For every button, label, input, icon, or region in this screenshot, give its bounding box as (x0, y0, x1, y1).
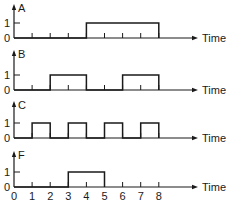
y-axis-arrow-icon (12, 50, 16, 56)
time-axis-label: Time (202, 32, 226, 44)
y-axis-arrow-icon (12, 151, 16, 157)
x-tick-label: 6 (120, 190, 126, 202)
x-tick-label: 1 (29, 190, 35, 202)
time-axis-arrow-icon (192, 36, 198, 40)
signal-label: B (18, 48, 25, 60)
waveform-c (14, 123, 159, 138)
y-axis-arrow-icon (12, 101, 16, 107)
x-tick-label: 5 (101, 190, 107, 202)
signal-panel-f: F10Time (4, 149, 226, 193)
time-axis-arrow-icon (192, 88, 198, 92)
x-tick-label: 2 (47, 190, 53, 202)
y-tick-label-0: 0 (4, 32, 10, 44)
signal-label: F (18, 149, 25, 161)
time-axis-arrow-icon (192, 185, 198, 189)
timing-diagram: A10TimeB10TimeC10TimeF10Time 012345678 (0, 0, 227, 206)
x-axis-tick-labels: 012345678 (11, 190, 162, 202)
y-tick-label-1: 1 (4, 117, 10, 129)
waveform-b (14, 75, 159, 90)
x-tick-label: 3 (65, 190, 71, 202)
y-tick-label-0: 0 (4, 181, 10, 193)
x-tick-label: 4 (83, 190, 89, 202)
signal-label: C (18, 99, 26, 111)
y-tick-label-0: 0 (4, 84, 10, 96)
time-axis-label: Time (202, 132, 226, 144)
signal-panel-a: A10Time (4, 2, 226, 44)
y-tick-label-1: 1 (4, 166, 10, 178)
x-tick-label: 0 (11, 190, 17, 202)
y-tick-label-1: 1 (4, 69, 10, 81)
signal-panel-b: B10Time (4, 48, 226, 96)
y-tick-label-1: 1 (4, 17, 10, 29)
waveform-f (14, 172, 105, 187)
signal-panel-c: C10Time (4, 99, 226, 144)
x-tick-label: 7 (138, 190, 144, 202)
signal-label: A (18, 2, 26, 14)
x-tick-label: 8 (156, 190, 162, 202)
time-axis-label: Time (202, 181, 226, 193)
y-axis-arrow-icon (12, 4, 16, 10)
y-tick-label-0: 0 (4, 132, 10, 144)
waveform-a (14, 23, 159, 38)
time-axis-label: Time (202, 84, 226, 96)
time-axis-arrow-icon (192, 136, 198, 140)
